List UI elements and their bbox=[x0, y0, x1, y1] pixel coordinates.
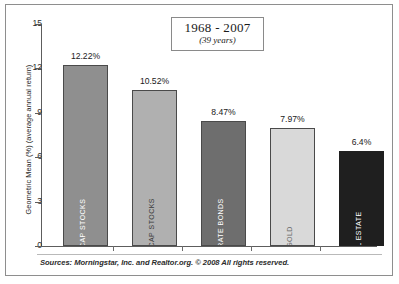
bar-small-cap-stocks[interactable]: SMALL CAP STOCKS bbox=[63, 65, 108, 246]
bar-gold[interactable]: GOLD bbox=[270, 128, 315, 246]
bar-value-real-estate: 6.4% bbox=[352, 138, 372, 147]
bar-large-cap-stocks[interactable]: LARGE CAP STOCKS bbox=[132, 90, 177, 246]
source-note: Sources: Morningstar, Inc. and Realtor.o… bbox=[40, 258, 289, 267]
chart-figure: 15 12 9 6 3 0 bbox=[0, 0, 399, 284]
bar-group-gold[interactable]: 7.97% GOLD bbox=[270, 128, 315, 246]
bar-category-real-estate: REAL ESTATE bbox=[355, 211, 362, 246]
bar-value-large-cap-stocks: 10.52% bbox=[140, 77, 169, 86]
chart-title: 1968 - 2007 bbox=[174, 21, 261, 35]
source-separator bbox=[37, 254, 382, 255]
bar-corporate-bonds[interactable]: CORPORATE BONDS bbox=[201, 121, 246, 246]
chart-title-box: 1968 - 2007 (39 years) bbox=[171, 17, 264, 51]
bar-value-corporate-bonds: 8.47% bbox=[211, 108, 235, 117]
chart-subtitle: (39 years) bbox=[174, 35, 261, 46]
bar-real-estate[interactable]: REAL ESTATE bbox=[339, 151, 384, 246]
chart-frame: 15 12 9 6 3 0 bbox=[5, 4, 393, 276]
bar-group-real-estate[interactable]: 6.4% REAL ESTATE bbox=[339, 151, 384, 246]
bar-category-corporate-bonds: CORPORATE BONDS bbox=[217, 198, 224, 246]
bar-group-corporate-bonds[interactable]: 8.47% CORPORATE BONDS bbox=[201, 121, 246, 246]
bar-value-small-cap-stocks: 12.22% bbox=[71, 52, 100, 61]
bar-category-gold: GOLD bbox=[286, 226, 293, 246]
bar-category-large-cap-stocks: LARGE CAP STOCKS bbox=[148, 198, 155, 246]
bar-category-small-cap-stocks: SMALL CAP STOCKS bbox=[79, 199, 86, 246]
bar-group-small-cap-stocks[interactable]: 12.22% SMALL CAP STOCKS bbox=[63, 65, 108, 246]
bar-group-large-cap-stocks[interactable]: 10.52% LARGE CAP STOCKS bbox=[132, 90, 177, 246]
bar-value-gold: 7.97% bbox=[280, 115, 304, 124]
